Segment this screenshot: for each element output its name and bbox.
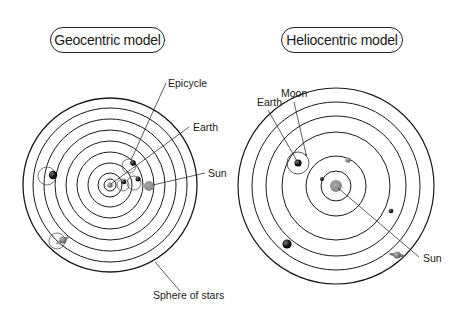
planet-icon — [49, 171, 57, 179]
heliocentric-leader-lines — [268, 102, 419, 257]
label-earth-helio: Earth — [257, 96, 282, 108]
planet-icon — [130, 160, 136, 166]
planet-icon — [282, 239, 291, 248]
planet-icon — [136, 177, 141, 182]
planet-icon — [389, 209, 394, 214]
label-sun-helio: Sun — [423, 252, 442, 264]
label-sun-geo: Sun — [208, 167, 227, 179]
label-sphere-of-stars: Sphere of stars — [153, 289, 224, 301]
label-epicycle: Epicycle — [168, 77, 207, 89]
label-moon: Moon — [281, 87, 307, 99]
planet-icon — [345, 157, 350, 162]
earth-icon — [294, 159, 301, 166]
moon-icon — [305, 154, 307, 156]
geocentric-diagram: Epicycle Earth Sun Sphere of stars — [23, 77, 227, 301]
label-earth-geo: Earth — [193, 121, 218, 133]
geocentric-leader-lines — [111, 83, 205, 291]
planet-icon — [122, 180, 126, 184]
diagram-canvas: Epicycle Earth Sun Sphere of stars — [0, 0, 456, 317]
heliocentric-diagram: Earth Moon Sun — [238, 87, 442, 284]
planet-icon — [320, 177, 324, 181]
sun-icon — [144, 181, 154, 191]
